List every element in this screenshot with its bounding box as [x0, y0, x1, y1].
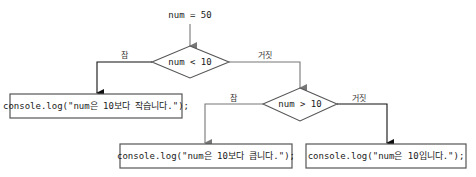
- process-text: console.log("num은 10보다 큽니다.");: [117, 151, 295, 161]
- edge-cond2-false: [337, 104, 387, 143]
- edge-cond1-true: [97, 62, 152, 93]
- process-node-out-small: console.log("num은 10보다 작습니다.");: [3, 94, 189, 118]
- decision-node-cond2: num > 10: [263, 88, 337, 121]
- edge-cond1-false: [229, 62, 300, 88]
- decision-node-cond1: num < 10: [152, 46, 229, 78]
- edge-label-true: 참: [121, 50, 129, 60]
- process-text: console.log("num은 10보다 작습니다.");: [3, 101, 189, 111]
- edge-label-false: 거짓: [352, 93, 366, 103]
- edge-cond2-true: [205, 104, 263, 143]
- edge-label-true: 참: [230, 93, 238, 103]
- process-node-out-equal: console.log("num은 10입니다.");: [306, 144, 466, 168]
- decision-text: num < 10: [168, 57, 211, 67]
- process-node-out-big: console.log("num은 10보다 큽니다.");: [117, 144, 295, 168]
- start-node-text: num = 50: [168, 10, 211, 20]
- process-text: console.log("num은 10입니다.");: [308, 150, 465, 161]
- edge-label-false: 거짓: [258, 50, 272, 60]
- decision-text: num > 10: [278, 99, 321, 109]
- flowchart: num = 50 num < 10 참 거짓 console.log("num은…: [0, 0, 476, 177]
